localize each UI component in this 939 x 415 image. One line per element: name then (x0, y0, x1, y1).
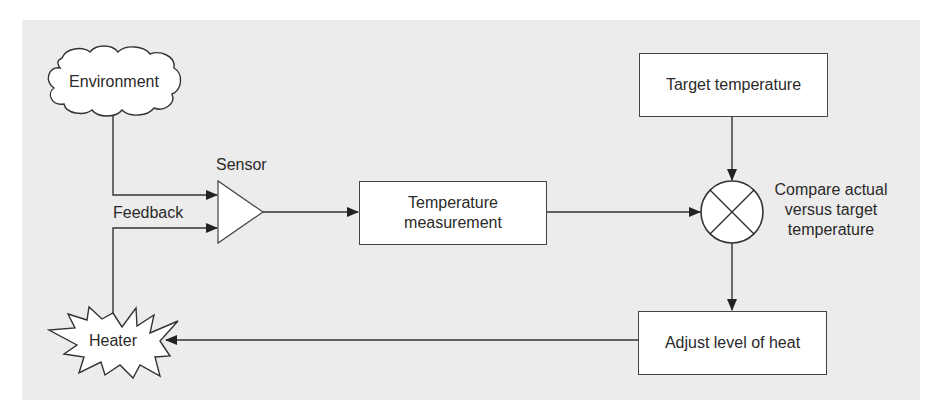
temperature-measurement-node: Temperature measurement (359, 181, 547, 245)
temperature-measurement-label: Temperature measurement (404, 193, 502, 233)
compare-junction-icon (701, 181, 763, 243)
adjust-heat-label: Adjust level of heat (665, 333, 800, 353)
heater-label: Heater (80, 331, 146, 350)
compare-label-text: Compare actual versus target temperature (766, 180, 896, 240)
environment-label: Environment (62, 72, 166, 91)
feedback-label: Feedback (113, 203, 193, 222)
sensor-label: Sensor (216, 155, 276, 174)
compare-label: Compare actual versus target temperature (766, 180, 896, 240)
adjust-heat-node: Adjust level of heat (638, 311, 827, 375)
target-temperature-node: Target temperature (639, 53, 828, 117)
target-temperature-label: Target temperature (666, 75, 801, 95)
sensor-amplifier-icon (218, 181, 263, 243)
